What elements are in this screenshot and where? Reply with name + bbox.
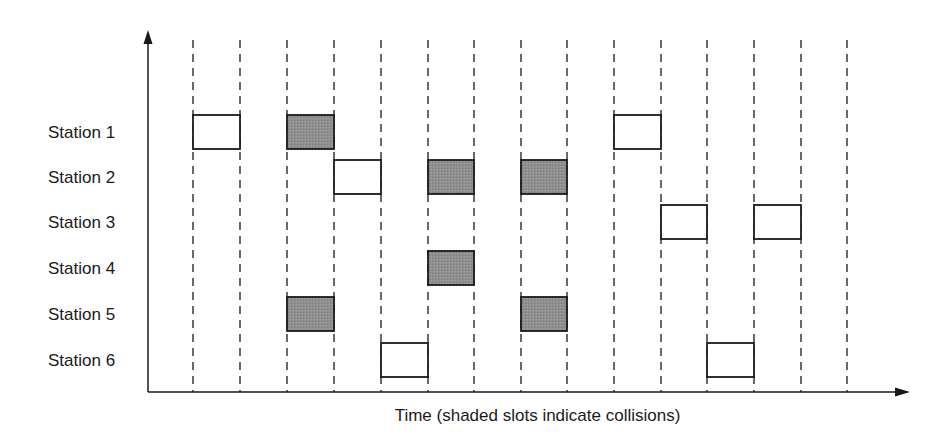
frame — [381, 343, 428, 377]
x-axis-arrow-icon — [895, 388, 910, 397]
collision-frame — [521, 160, 567, 194]
collision-frame — [287, 115, 334, 149]
collision-frame — [428, 160, 474, 194]
x-axis-caption: Time (shaded slots indicate collisions) — [0, 406, 945, 426]
station-label: Station 3 — [48, 213, 115, 233]
frame-boxes — [193, 115, 801, 377]
timing-chart — [0, 0, 945, 435]
collision-frame — [428, 251, 474, 285]
slot-boundary-lines — [193, 40, 847, 392]
station-label: Station 5 — [48, 305, 115, 325]
collision-frame — [287, 297, 334, 331]
station-label: Station 2 — [48, 168, 115, 188]
frame — [614, 115, 661, 149]
frame — [334, 160, 381, 194]
station-label: Station 6 — [48, 351, 115, 371]
frame — [754, 205, 801, 239]
frame — [193, 115, 240, 149]
y-axis-arrow-icon — [144, 30, 153, 44]
slotted-aloha-diagram: Station 1Station 2Station 3Station 4Stat… — [0, 0, 945, 435]
station-label: Station 4 — [48, 259, 115, 279]
frame — [707, 343, 754, 377]
collision-frame — [521, 297, 567, 331]
frame — [661, 205, 707, 239]
station-label: Station 1 — [48, 123, 115, 143]
